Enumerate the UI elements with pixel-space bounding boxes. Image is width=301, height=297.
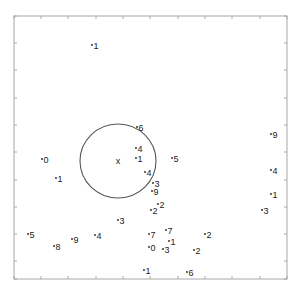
point-label: 2 — [196, 246, 201, 256]
data-point: 0 — [148, 243, 155, 253]
point-label: 3 — [264, 206, 269, 216]
point-label: 8 — [56, 242, 61, 252]
point-label: 1 — [273, 190, 278, 200]
data-point: 2 — [193, 246, 200, 256]
data-point: 9 — [71, 235, 78, 245]
point-label: 7 — [151, 230, 156, 240]
point-label: 1 — [146, 266, 151, 276]
data-point: 6 — [186, 268, 193, 278]
data-point: 1 — [91, 41, 98, 51]
point-label: 0 — [44, 155, 49, 165]
point-label: 1 — [94, 41, 99, 51]
point-label: 6 — [189, 268, 194, 278]
data-point: 4 — [144, 168, 151, 178]
point-label: 4 — [97, 231, 102, 241]
point-label: 2 — [207, 230, 212, 240]
data-point: 3 — [261, 206, 268, 216]
radius-circle: x — [80, 124, 156, 198]
point-label: 5 — [174, 154, 179, 164]
point-label: 2 — [153, 206, 158, 216]
points-layer: 164150143922941335894771032216 — [27, 41, 277, 278]
data-point: 6 — [136, 123, 143, 133]
data-point: 5 — [27, 230, 34, 240]
data-point: 8 — [53, 242, 60, 252]
data-point: 3 — [162, 245, 169, 255]
data-point: 1 — [270, 190, 277, 200]
point-label: 9 — [273, 130, 278, 140]
data-point: 2 — [157, 200, 164, 210]
point-label: 4 — [147, 168, 152, 178]
point-label: 7 — [168, 226, 173, 236]
data-point: 1 — [135, 154, 142, 164]
data-point: 7 — [148, 230, 155, 240]
point-label: 2 — [160, 200, 165, 210]
data-point: 4 — [135, 144, 142, 154]
data-point: 9 — [270, 130, 277, 140]
data-point: 3 — [117, 216, 124, 226]
plot-frame — [14, 16, 287, 279]
scatter-plot: x 164150143922941335894771032216 — [0, 0, 301, 297]
data-point: 1 — [143, 266, 150, 276]
point-label: 1 — [171, 237, 176, 247]
data-point: 2 — [150, 206, 157, 216]
center-marker: x — [116, 156, 121, 166]
data-point: 2 — [204, 230, 211, 240]
point-label: 1 — [58, 174, 63, 184]
data-point: 4 — [270, 166, 277, 176]
data-point: 9 — [151, 187, 158, 197]
point-label: 4 — [273, 166, 278, 176]
point-label: 5 — [30, 230, 35, 240]
data-point: 7 — [165, 226, 172, 236]
point-label: 3 — [120, 216, 125, 226]
point-label: 3 — [165, 245, 170, 255]
data-point: 4 — [94, 231, 101, 241]
point-label: 9 — [154, 187, 159, 197]
point-label: 9 — [74, 235, 79, 245]
point-label: 1 — [138, 154, 143, 164]
data-point: 1 — [55, 174, 62, 184]
point-label: 0 — [151, 243, 156, 253]
axes-frame — [14, 16, 287, 279]
point-label: 4 — [138, 144, 143, 154]
data-point: 5 — [171, 154, 178, 164]
point-label: 6 — [139, 123, 144, 133]
data-point: 0 — [41, 155, 48, 165]
